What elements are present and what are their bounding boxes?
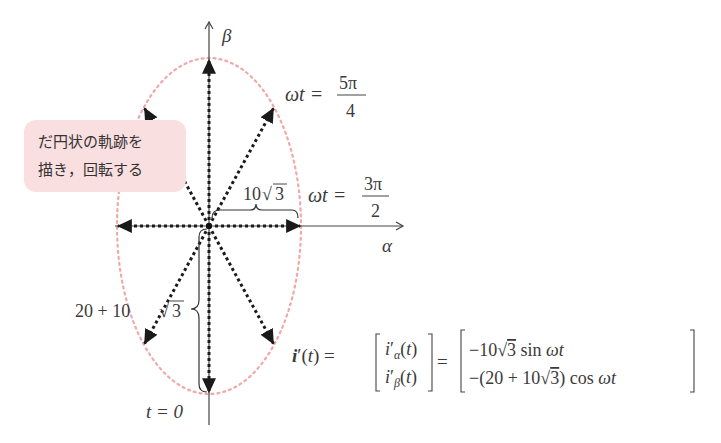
- svg-text:ωt =: ωt =: [308, 184, 346, 206]
- svg-text:5π: 5π: [339, 73, 357, 93]
- svg-text:ωt =: ωt =: [285, 83, 323, 105]
- angle-label-3pi2: ωt = 3π 2: [308, 174, 389, 221]
- equation-lhs: i′(t) =: [292, 345, 335, 367]
- t-zero-label: t = 0: [146, 401, 184, 422]
- vector-component-beta: i′β(t): [385, 367, 417, 390]
- beta-axis-label: β: [221, 25, 232, 46]
- sqrt-symbol: √: [159, 301, 169, 321]
- origin-point: [206, 223, 212, 229]
- semi-minor-label: 10 √ 3: [243, 184, 287, 204]
- alpha-axis-label: α: [382, 235, 393, 256]
- svg-text:3: 3: [275, 184, 284, 204]
- svg-text:10: 10: [243, 184, 261, 204]
- current-vector-equation: i′(t) = i′α(t) i′β(t) = −10√3 sin ωt −(2…: [292, 330, 694, 392]
- trajectory-diagram: β α ωt = 5π 4 ωt = 3π 2 10 √ 3 20 + 10 √…: [0, 0, 721, 443]
- semi-major-label: 20 + 10 √ 3: [75, 301, 184, 321]
- annotation-line-1: だ円状の軌跡を: [38, 128, 186, 156]
- svg-text:20 + 10: 20 + 10: [75, 301, 130, 321]
- semi-minor-brace: [212, 204, 298, 218]
- svg-text:3π: 3π: [364, 174, 382, 194]
- rhs-component-alpha: −10√3 sin ωt: [469, 340, 565, 360]
- svg-text:4: 4: [346, 101, 355, 121]
- svg-text:3: 3: [172, 301, 181, 321]
- rhs-component-beta: −(20 + 10√3) cos ωt: [469, 368, 617, 389]
- annotation-callout: だ円状の軌跡を 描き，回転する: [24, 120, 186, 192]
- current-vector-5: [209, 108, 273, 226]
- svg-text:2: 2: [371, 201, 380, 221]
- annotation-line-2: 描き，回転する: [38, 156, 186, 184]
- equation-equals: =: [437, 351, 448, 372]
- angle-label-5pi4: ωt = 5π 4: [285, 73, 366, 121]
- current-vector-7: [209, 226, 273, 344]
- vector-component-alpha: i′α(t): [385, 339, 417, 362]
- sqrt-symbol: √: [262, 184, 272, 204]
